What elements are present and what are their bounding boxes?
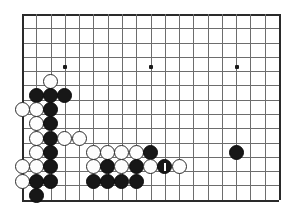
go-board[interactable]	[0, 0, 297, 211]
board-edge-horizontal	[22, 200, 279, 202]
grid-line-vertical	[79, 14, 80, 200]
black-stone[interactable]	[43, 174, 58, 189]
black-stone[interactable]	[129, 159, 144, 174]
go-board-screenshot	[0, 0, 297, 211]
black-stone[interactable]	[129, 174, 144, 189]
white-stone[interactable]	[15, 159, 30, 174]
white-stone[interactable]	[57, 131, 72, 146]
black-stone[interactable]	[43, 145, 58, 160]
white-stone[interactable]	[29, 159, 44, 174]
grid-line-vertical	[222, 14, 223, 200]
black-stone[interactable]	[29, 188, 44, 203]
star-point-2	[235, 65, 239, 69]
grid-line-vertical	[265, 14, 266, 200]
white-stone[interactable]	[72, 131, 87, 146]
black-stone[interactable]	[229, 145, 244, 160]
grid-line-vertical	[65, 14, 66, 200]
black-stone[interactable]	[86, 174, 101, 189]
black-stone[interactable]	[100, 174, 115, 189]
white-stone[interactable]	[43, 74, 58, 89]
black-stone[interactable]	[29, 174, 44, 189]
grid-line-vertical	[208, 14, 209, 200]
white-stone[interactable]	[86, 145, 101, 160]
black-stone[interactable]	[43, 131, 58, 146]
white-stone[interactable]	[129, 145, 144, 160]
move-marker-icon	[164, 163, 166, 171]
grid-line-vertical	[236, 14, 237, 200]
white-stone[interactable]	[172, 159, 187, 174]
grid-line-vertical	[250, 14, 251, 200]
black-stone[interactable]	[29, 88, 44, 103]
star-point-0	[63, 65, 67, 69]
black-stone[interactable]	[114, 174, 129, 189]
star-point-1	[149, 65, 153, 69]
black-stone[interactable]	[143, 145, 158, 160]
board-edge-vertical	[279, 14, 281, 200]
white-stone[interactable]	[15, 174, 30, 189]
black-stone[interactable]	[43, 88, 58, 103]
white-stone[interactable]	[29, 102, 44, 117]
white-stone[interactable]	[29, 145, 44, 160]
white-stone[interactable]	[15, 102, 30, 117]
grid-line-vertical	[193, 14, 194, 200]
white-stone[interactable]	[29, 131, 44, 146]
